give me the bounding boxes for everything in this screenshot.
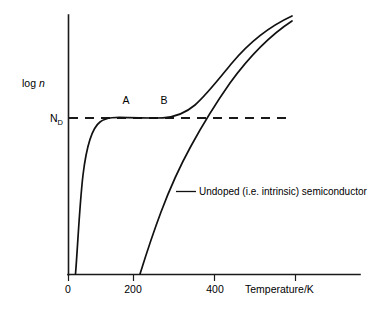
label-point-b: B — [160, 94, 167, 106]
chart-canvas: 0 200 400 Temperature/K log n ND A B Und… — [0, 0, 384, 313]
nd-label-main: N — [50, 112, 58, 124]
label-point-a: A — [122, 94, 129, 106]
annotation-undoped-label: Undoped (i.e. intrinsic) semiconductor — [199, 186, 368, 197]
x-axis-title: Temperature/K — [245, 283, 314, 295]
semiconductor-carrier-concentration-figure: 0 200 400 Temperature/K log n ND A B Und… — [0, 0, 384, 313]
y-axis-label-log: log — [22, 77, 39, 89]
intrinsic-semiconductor-curve — [140, 21, 292, 274]
x-tick-label-0: 0 — [65, 283, 71, 295]
x-tick-label-200: 200 — [124, 283, 142, 295]
nd-gridline-label: ND — [50, 112, 64, 127]
y-axis-label: log n — [22, 77, 45, 89]
nd-label-subscript: D — [58, 118, 64, 127]
doped-semiconductor-curve — [76, 16, 293, 274]
x-tick-label-400: 400 — [206, 283, 224, 295]
y-axis-label-n: n — [39, 77, 45, 89]
